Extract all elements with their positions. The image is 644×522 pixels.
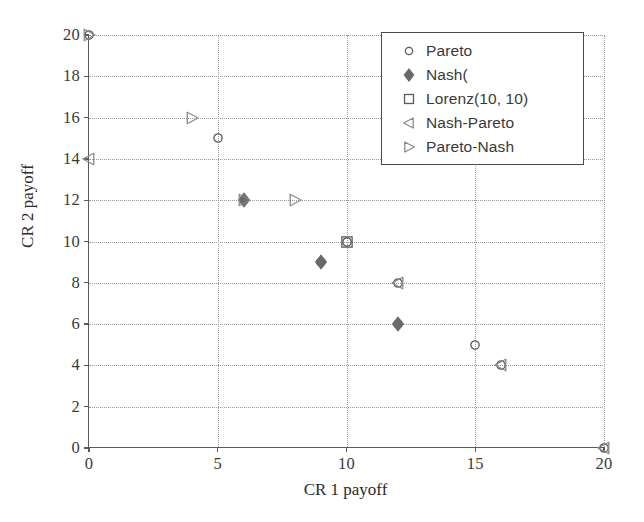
legend-item-pareto: Pareto — [382, 39, 583, 63]
y-axis-label: CR 2 payoff — [18, 116, 38, 296]
triangle-right-icon — [392, 140, 426, 154]
triangle-left-icon — [392, 116, 426, 130]
y-tick — [84, 406, 89, 407]
gridline-horizontal — [89, 283, 603, 284]
data-point-triangle-left-icon — [493, 357, 509, 373]
data-point-triangle-left-icon — [596, 440, 612, 456]
y-tick-label: 14 — [63, 149, 80, 169]
y-tick — [84, 282, 89, 283]
x-tick — [88, 447, 89, 452]
circle-icon — [392, 44, 426, 58]
gridline-horizontal — [89, 365, 603, 366]
gridline-vertical — [604, 35, 605, 447]
y-tick-label: 8 — [72, 273, 80, 293]
legend-item-label: Nash-Pareto — [426, 114, 514, 132]
gridline-vertical — [218, 35, 219, 447]
y-tick — [84, 323, 89, 324]
legend-item-label: Nash( — [426, 66, 468, 84]
y-tick-label: 12 — [63, 190, 80, 210]
y-tick-label: 6 — [72, 314, 80, 334]
data-point-diamond-icon — [390, 316, 406, 332]
legend-item-nash: Nash( — [382, 63, 583, 87]
x-tick-label: 15 — [467, 454, 484, 474]
legend: Pareto Nash( Lorenz(10, 10) Nash-Pareto … — [381, 32, 584, 165]
data-point-triangle-left-icon — [390, 275, 406, 291]
legend-item-label: Lorenz(10, 10) — [426, 90, 528, 108]
legend-item-pareto-nash: Pareto-Nash — [382, 135, 583, 159]
x-tick — [346, 447, 347, 452]
legend-item-label: Pareto-Nash — [426, 138, 514, 156]
data-point-triangle-right-icon — [236, 192, 252, 208]
data-point-triangle-right-icon — [287, 192, 303, 208]
y-tick-label: 10 — [63, 232, 80, 252]
y-tick — [84, 241, 89, 242]
y-tick — [84, 365, 89, 366]
data-point-triangle-left-icon — [81, 151, 97, 167]
gridline-horizontal — [89, 324, 603, 325]
diamond-icon — [392, 68, 426, 82]
y-tick — [84, 76, 89, 77]
gridline-horizontal — [89, 407, 603, 408]
legend-item-nash-pareto: Nash-Pareto — [382, 111, 583, 135]
legend-item-label: Pareto — [426, 42, 472, 60]
x-tick-label: 0 — [85, 454, 93, 474]
data-point-square-icon — [339, 234, 355, 250]
y-tick-label: 2 — [72, 397, 80, 417]
x-tick — [217, 447, 218, 452]
x-tick-label: 10 — [338, 454, 355, 474]
y-tick — [84, 117, 89, 118]
y-tick-label: 4 — [72, 355, 80, 375]
x-axis-label: CR 1 payoff — [88, 480, 603, 500]
x-tick-label: 20 — [596, 454, 613, 474]
legend-item-lorenz-10-10: Lorenz(10, 10) — [382, 87, 583, 111]
gridline-horizontal — [89, 200, 603, 201]
square-icon — [392, 92, 426, 106]
data-point-triangle-right-icon — [81, 27, 97, 43]
y-tick-label: 0 — [72, 438, 80, 458]
data-point-circle-icon — [210, 130, 226, 146]
x-tick-label: 5 — [214, 454, 222, 474]
y-tick-label: 18 — [63, 66, 80, 86]
y-tick — [84, 200, 89, 201]
scatter-plot-figure: 0246810121416182005101520 — [0, 0, 644, 522]
data-point-diamond-icon — [313, 254, 329, 270]
y-tick-label: 20 — [63, 25, 80, 45]
x-tick — [475, 447, 476, 452]
data-point-circle-icon — [467, 337, 483, 353]
y-tick-label: 16 — [63, 108, 80, 128]
data-point-triangle-right-icon — [184, 110, 200, 126]
